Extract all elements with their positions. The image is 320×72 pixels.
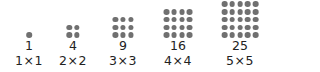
square-formula: 4×4 (148, 54, 208, 68)
dot-icon (179, 17, 185, 23)
square-formula: 3×3 (93, 54, 153, 68)
dot-icon (74, 25, 80, 31)
dot-icon (253, 9, 259, 15)
dot-icon (128, 32, 134, 38)
dot-icon (237, 9, 243, 15)
dot-icon (164, 25, 170, 31)
square-9-column: 9 3×3 (93, 0, 153, 72)
dot-icon (187, 17, 193, 23)
dot-icon (253, 17, 259, 23)
dot-icon (222, 32, 228, 38)
dot-icon (229, 25, 235, 31)
dot-icon (112, 32, 118, 38)
square-formula: 5×5 (210, 54, 270, 68)
dot-icon (245, 1, 251, 7)
dot-grid-4x4 (164, 9, 193, 38)
dot-icon (253, 32, 259, 38)
dot-icon (229, 9, 235, 15)
dot-icon (222, 1, 228, 7)
dot-icon (245, 17, 251, 23)
dot-grid-2x2 (66, 25, 79, 38)
dot-icon (222, 9, 228, 15)
dot-icon (112, 25, 118, 31)
dot-icon (253, 1, 259, 7)
dot-grid-3x3 (112, 17, 133, 38)
dot-icon (187, 9, 193, 15)
dot-icon (179, 9, 185, 15)
dot-icon (237, 25, 243, 31)
dot-icon (229, 17, 235, 23)
dot-icon (229, 1, 235, 7)
dot-icon (187, 25, 193, 31)
dot-icon (171, 9, 177, 15)
square-value: 16 (148, 39, 208, 53)
dot-icon (164, 17, 170, 23)
dot-icon (237, 17, 243, 23)
dot-icon (253, 25, 259, 31)
dot-icon (237, 1, 243, 7)
dot-icon (222, 17, 228, 23)
square-value: 25 (210, 39, 270, 53)
dot-icon (128, 25, 134, 31)
dot-icon (179, 25, 185, 31)
dot-icon (66, 25, 72, 31)
dot-grid-5x5 (222, 1, 259, 38)
dot-icon (245, 9, 251, 15)
dot-icon (171, 17, 177, 23)
dot-icon (187, 32, 193, 38)
dot-icon (120, 17, 126, 23)
dot-icon (128, 17, 134, 23)
dot-icon (245, 25, 251, 31)
square-value: 9 (93, 39, 153, 53)
dot-icon (164, 9, 170, 15)
square-25-column: 25 5×5 (210, 0, 270, 72)
dot-icon (120, 25, 126, 31)
dot-icon (112, 17, 118, 23)
square-16-column: 16 4×4 (148, 0, 208, 72)
dot-icon (222, 25, 228, 31)
dot-icon (164, 32, 170, 38)
dot-icon (171, 25, 177, 31)
